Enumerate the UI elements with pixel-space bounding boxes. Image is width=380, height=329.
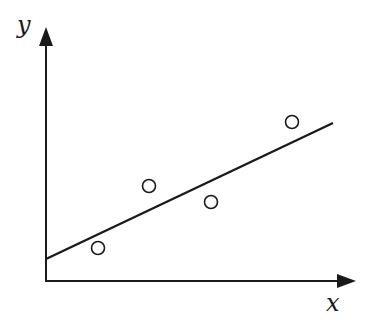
scatter-diagram: y x (0, 0, 380, 329)
x-axis-arrowhead-icon (337, 274, 356, 288)
y-axis-label: y (16, 11, 31, 39)
data-point (286, 116, 299, 129)
fit-line (46, 123, 333, 259)
y-axis-arrowhead-icon (39, 27, 53, 46)
data-point (143, 180, 156, 193)
x-axis-label: x (326, 289, 340, 317)
data-point (92, 242, 105, 255)
data-point (205, 196, 218, 209)
